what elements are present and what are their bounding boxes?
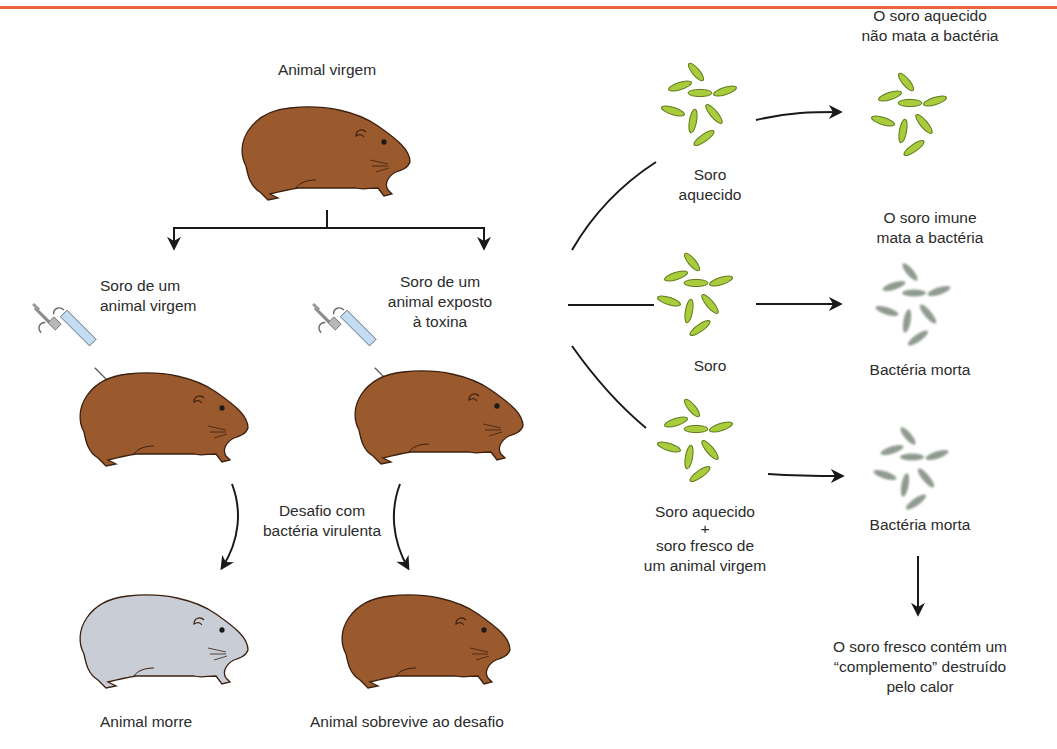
guinea-pig-survivor-icon (342, 595, 510, 688)
label-line: “complemento” destruído (800, 657, 1040, 677)
label-line: bactéria virulenta (252, 521, 392, 541)
bacteria-dead-icon (874, 261, 951, 348)
bacteria-heated-serum-icon (660, 61, 737, 148)
label-line: Soro aquecido (620, 502, 790, 522)
label-line: O soro fresco contém um (800, 637, 1040, 657)
label-line: Soro de um (372, 272, 508, 292)
label-row1-result: O soro aquecido não mata a bactéria (840, 6, 1020, 46)
label-line: animal exposto (372, 292, 508, 312)
label-line: Desafio com (252, 501, 392, 521)
label-animal-survives: Animal sobrevive ao desafio (310, 712, 504, 732)
branch-line-bottom-icon (572, 346, 646, 428)
label-row2-input: Soro (670, 356, 750, 376)
label-row2-dead: Bactéria morta (850, 360, 990, 380)
label-line: O soro imune (860, 208, 1000, 228)
arrow-row1-icon (756, 112, 840, 120)
label-line: à toxina (372, 312, 508, 332)
label-line: não mata a bactéria (840, 26, 1020, 46)
label-line: aquecido (660, 185, 760, 205)
label-line: + (620, 522, 790, 536)
label-row3-input: Soro aquecido + soro fresco de um animal… (620, 502, 790, 576)
bacteria-heated-plus-fresh-icon (656, 397, 733, 484)
guinea-pig-immune-serum-icon (355, 371, 523, 464)
label-immune-serum: Soro de um animal exposto à toxina (372, 272, 508, 332)
label-row3-dead: Bactéria morta (850, 515, 990, 535)
label-line: mata a bactéria (860, 228, 1000, 248)
label-animal-virgem: Animal virgem (262, 60, 392, 80)
label-naive-serum: Soro de um animal virgem (100, 276, 196, 316)
split-arrow-icon (174, 210, 484, 248)
challenge-arrow-right-icon (394, 484, 408, 568)
label-row1-input: Soro aquecido (660, 165, 760, 205)
label-conclusion: O soro fresco contém um “complemento” de… (800, 637, 1040, 697)
label-row2-result: O soro imune mata a bactéria (860, 208, 1000, 248)
bacteria-dead-icon (872, 425, 949, 512)
bacteria-serum-icon (656, 251, 733, 338)
label-challenge: Desafio com bactéria virulenta (252, 501, 392, 541)
syringe-icon (32, 303, 117, 390)
bacteria-surviving-icon (870, 71, 947, 158)
label-animal-dies: Animal morre (100, 712, 192, 732)
guinea-pig-naive-icon (242, 107, 410, 200)
guinea-pig-dead-icon (80, 595, 248, 688)
label-line: Soro de um (100, 276, 196, 296)
label-line: pelo calor (800, 677, 1040, 697)
label-line: um animal virgem (620, 556, 790, 576)
branch-line-top-icon (572, 162, 656, 250)
challenge-arrow-left-icon (222, 484, 238, 568)
guinea-pig-naive-serum-icon (80, 373, 248, 466)
arrow-row3-icon (768, 474, 842, 476)
label-line: soro fresco de (620, 536, 790, 556)
label-line: O soro aquecido (840, 6, 1020, 26)
label-line: animal virgem (100, 296, 196, 316)
label-line: Soro (660, 165, 760, 185)
